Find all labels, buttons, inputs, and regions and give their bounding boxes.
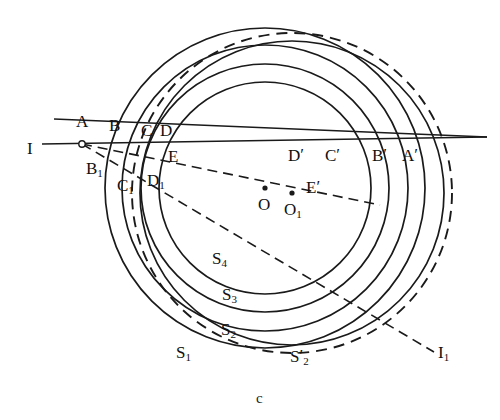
circles-group [105,28,452,353]
geometry-figure: ABCDEB1C1D1D′C′B′A′E′S1S2S3S4S′2OO1II1 c [0,0,500,420]
line-label-line-I: I [27,140,33,157]
point-label-A: A [76,113,88,130]
point-label-C: C [141,122,152,139]
point-label-D1: D1 [147,172,165,189]
point-label-B: B [109,117,120,134]
center-label-O: O [258,196,270,213]
point-label-Cp: C′ [325,147,340,164]
point-label-C1: C1 [117,177,134,194]
center-dot-O [262,185,267,190]
point-label-B1: B1 [86,160,103,177]
circle-label-S1: S1 [176,344,191,361]
point-label-E: E [168,148,178,165]
circle-label-S2p: S′2 [290,348,309,365]
center-label-O1: O1 [284,201,302,218]
figure-caption: c [256,390,263,407]
point-label-Ap: A′ [402,147,418,164]
convergence-point-group [79,141,85,147]
figure-canvas [0,0,500,420]
circle-label-S3: S3 [222,286,237,303]
point-label-Dp: D′ [288,147,304,164]
point-label-Bp: B′ [372,147,387,164]
line-label-line-I1: I1 [438,344,449,361]
I-convergence-point [79,141,85,147]
point-label-D: D [160,122,172,139]
circle-label-S2: S2 [221,321,236,338]
line-I [42,137,487,144]
point-label-Ep: E′ [306,179,320,196]
circle-label-S4: S4 [212,250,227,267]
center-dot-O1 [289,190,294,195]
